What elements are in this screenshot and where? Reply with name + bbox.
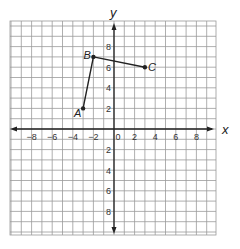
y-tick-label: 8 — [106, 207, 111, 217]
x-tick-label: 2 — [132, 132, 137, 142]
y-axis-label: y — [109, 5, 118, 20]
point-label-b: B — [83, 49, 90, 61]
point-c — [143, 65, 147, 69]
point-b — [91, 55, 95, 59]
y-tick-label: 2 — [106, 145, 111, 155]
x-tick-label: 4 — [153, 132, 158, 142]
segment-bc — [93, 57, 144, 67]
x-tick-label: −8 — [26, 132, 36, 142]
point-label-a: A — [73, 107, 81, 119]
x-tick-label: −2 — [88, 132, 98, 142]
point-label-c: C — [148, 61, 156, 73]
y-axis-down-arrow-icon — [112, 227, 117, 234]
x-tick-label: −4 — [68, 132, 78, 142]
y-tick-label: 6 — [106, 63, 111, 73]
y-axis-up-arrow-icon — [112, 23, 117, 30]
axes — [10, 23, 214, 234]
x-tick-label: 0 — [115, 132, 120, 142]
y-tick-label: 2 — [106, 104, 111, 114]
y-tick-label: 4 — [106, 83, 111, 93]
x-tick-label: −6 — [47, 132, 57, 142]
point-a — [81, 106, 85, 110]
segment-ab — [83, 57, 93, 109]
grid-lines — [10, 21, 216, 235]
x-tick-label: 6 — [173, 132, 178, 142]
y-tick-label: 6 — [106, 186, 111, 196]
x-axis-label: x — [221, 122, 229, 137]
coordinate-plane: −8−6−4−20246886422468 ABC x y — [0, 0, 240, 249]
y-tick-label: 4 — [106, 166, 111, 176]
y-tick-label: 8 — [106, 42, 111, 52]
x-tick-label: 8 — [194, 132, 199, 142]
x-axis-right-arrow-icon — [207, 127, 214, 132]
